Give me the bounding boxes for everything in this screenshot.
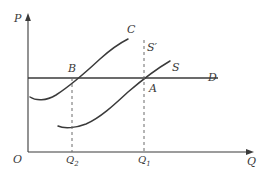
x-tick-q1-sub: 1 — [146, 160, 150, 168]
supply-demand-diagram: P Q O Q2 Q1 D S S′ A B C — [0, 0, 266, 175]
supply-shifted-prime: ′ — [155, 41, 158, 54]
origin-label: O — [13, 154, 22, 165]
x-tick-label-q1: Q1 — [138, 155, 151, 168]
x-tick-label-q2: Q2 — [66, 155, 79, 168]
demand-curve-label: D — [208, 72, 217, 83]
supply-shifted-curve-label: S′ — [147, 42, 157, 53]
x-tick-q2-base: Q — [66, 154, 74, 165]
point-b-label: B — [68, 63, 76, 74]
supply-shifted-base: S — [147, 41, 155, 54]
x-axis-label: Q — [247, 156, 256, 167]
y-axis — [25, 13, 31, 152]
y-axis-arrow-icon — [25, 13, 31, 21]
x-tick-q2-sub: 2 — [74, 160, 78, 168]
point-c-label: C — [127, 24, 135, 35]
supply-curve-label: S — [172, 62, 180, 73]
x-tick-q1-base: Q — [138, 154, 146, 165]
point-a-label: A — [149, 83, 157, 94]
y-axis-label: P — [14, 13, 21, 24]
supply-shifted-curve-path — [30, 39, 128, 100]
